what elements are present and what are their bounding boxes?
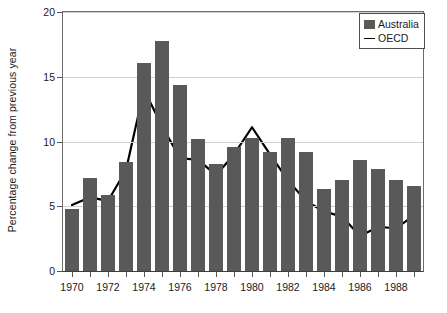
bar <box>245 138 259 271</box>
x-tick-label: 1972 <box>96 281 119 293</box>
bar <box>83 178 97 271</box>
x-tick-mark <box>144 272 145 277</box>
legend-square-swatch-icon <box>364 20 375 29</box>
bar <box>155 41 169 272</box>
y-tick-label: 15 <box>43 71 55 83</box>
bar <box>299 152 313 271</box>
x-tick-label: 1984 <box>312 281 335 293</box>
y-axis-ticks: 05101520 <box>24 0 62 290</box>
x-tick-label: 1978 <box>204 281 227 293</box>
y-tick-label: 20 <box>43 6 55 18</box>
x-tick-label: 1976 <box>168 281 191 293</box>
gridline <box>63 77 423 78</box>
bar <box>335 180 349 271</box>
x-tick-mark <box>126 272 127 277</box>
x-tick-mark <box>180 272 181 277</box>
y-tick-label: 10 <box>43 136 55 148</box>
x-tick-mark <box>234 272 235 277</box>
bar <box>353 160 367 271</box>
y-axis-label: Percentage change from previous year <box>6 48 18 233</box>
bar <box>209 164 223 271</box>
y-tick-label: 0 <box>49 265 55 277</box>
y-axis-label-container: Percentage change from previous year <box>0 0 24 280</box>
bar <box>263 152 277 271</box>
bar <box>65 209 79 271</box>
bar <box>317 189 331 271</box>
chart-legend: Australia OECD <box>359 13 425 49</box>
bar <box>227 147 241 271</box>
x-tick-mark <box>342 272 343 277</box>
plot-area <box>62 11 424 272</box>
gridline <box>63 206 423 207</box>
x-tick-mark <box>72 272 73 277</box>
x-tick-mark <box>270 272 271 277</box>
x-tick-mark <box>198 272 199 277</box>
bar <box>101 195 115 271</box>
x-tick-mark <box>414 272 415 277</box>
x-tick-mark <box>396 272 397 277</box>
chart-container: Percentage change from previous year 051… <box>0 0 447 313</box>
x-tick-mark <box>252 272 253 277</box>
x-tick-mark <box>216 272 217 277</box>
x-tick-mark <box>288 272 289 277</box>
legend-label-oecd: OECD <box>378 32 408 44</box>
legend-label-australia: Australia <box>378 18 419 30</box>
x-tick-mark <box>162 272 163 277</box>
x-tick-mark <box>108 272 109 277</box>
x-tick-label: 1970 <box>60 281 83 293</box>
x-tick-label: 1974 <box>132 281 155 293</box>
bar <box>191 139 205 271</box>
x-tick-mark <box>378 272 379 277</box>
x-tick-mark <box>306 272 307 277</box>
bar <box>407 186 421 271</box>
legend-item-australia: Australia <box>364 17 419 31</box>
bar <box>389 180 403 271</box>
x-tick-label: 1980 <box>240 281 263 293</box>
bar <box>119 162 133 271</box>
legend-line-swatch-icon <box>364 34 375 43</box>
bar <box>281 138 295 271</box>
x-tick-label: 1982 <box>276 281 299 293</box>
y-tick-label: 5 <box>49 200 55 212</box>
bar <box>173 85 187 271</box>
bar <box>137 63 151 271</box>
x-tick-mark <box>324 272 325 277</box>
gridline <box>63 142 423 143</box>
x-tick-label: 1988 <box>384 281 407 293</box>
x-tick-mark <box>360 272 361 277</box>
bar <box>371 169 385 271</box>
legend-item-oecd: OECD <box>364 31 419 45</box>
x-tick-mark <box>90 272 91 277</box>
x-tick-label: 1986 <box>348 281 371 293</box>
